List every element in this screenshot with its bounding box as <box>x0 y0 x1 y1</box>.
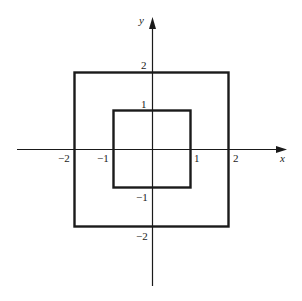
y-tick-label: −2 <box>136 230 148 242</box>
coordinate-plane-figure: x y −2 −1 1 2 2 1 −1 −2 <box>0 0 302 301</box>
x-tick-label: 1 <box>194 152 200 164</box>
y-tick-label: 2 <box>141 59 147 71</box>
x-tick-label: −2 <box>58 152 70 164</box>
x-tick-label: −1 <box>97 152 109 164</box>
y-axis-label: y <box>138 14 144 26</box>
diagram-canvas: x y −2 −1 1 2 2 1 −1 −2 <box>0 0 302 301</box>
y-tick-label: −1 <box>136 191 148 203</box>
x-axis-label: x <box>279 152 285 164</box>
y-tick-label: 1 <box>141 98 147 110</box>
x-tick-label: 2 <box>233 152 239 164</box>
y-axis-arrow-icon <box>149 17 156 29</box>
